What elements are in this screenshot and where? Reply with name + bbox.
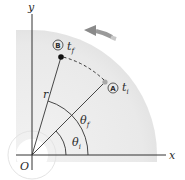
marker-a-letter: A	[110, 85, 116, 93]
point-a	[102, 79, 107, 84]
y-axis-label: y	[27, 1, 35, 14]
origin-label: O	[20, 160, 29, 173]
point-b	[58, 54, 64, 60]
x-axis-label: x	[169, 149, 176, 162]
rotation-arrow-icon	[84, 25, 116, 39]
radius-label: r	[43, 88, 49, 101]
rotation-diagram: y x O B tf A ti r θf θi	[0, 0, 185, 180]
marker-b-letter: B	[55, 42, 60, 50]
